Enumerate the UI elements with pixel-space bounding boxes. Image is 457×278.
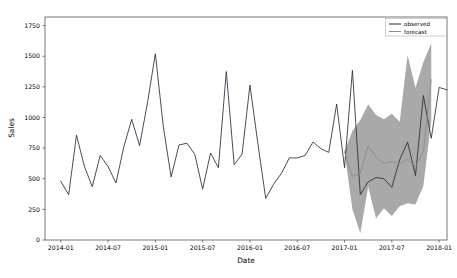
x-tick-label: 2018-01 <box>426 244 452 251</box>
x-tick-label: 2014-07 <box>95 244 121 251</box>
sales-forecast-chart: 02505007501000125015001750 2014-012014-0… <box>0 0 457 278</box>
x-tick-label: 2017-01 <box>332 244 358 251</box>
legend-label-forecast: forecast <box>404 29 427 35</box>
y-tick-label: 1000 <box>24 114 40 121</box>
x-tick-label: 2017-07 <box>379 244 405 251</box>
x-tick-label: 2015-07 <box>190 244 216 251</box>
x-tick-label: 2014-01 <box>48 244 74 251</box>
legend-label-observed: observed <box>404 21 430 27</box>
chart-figure: 02505007501000125015001750 2014-012014-0… <box>0 0 457 278</box>
chart-legend: observed forecast <box>386 19 447 37</box>
x-axis-title: Date <box>237 256 255 265</box>
y-tick-label: 0 <box>36 236 40 243</box>
y-tick-label: 1500 <box>24 52 40 59</box>
y-tick-label: 1250 <box>24 83 40 90</box>
y-tick-label: 500 <box>28 175 40 182</box>
y-tick-label: 250 <box>28 206 40 213</box>
x-axis-ticks: 2014-012014-072015-012015-072016-012016-… <box>48 240 452 251</box>
y-axis-title: Sales <box>7 118 16 138</box>
x-tick-label: 2015-01 <box>142 244 168 251</box>
y-tick-label: 750 <box>28 144 40 151</box>
y-axis-ticks: 02505007501000125015001750 <box>24 22 45 243</box>
x-tick-label: 2016-07 <box>284 244 310 251</box>
x-tick-label: 2016-01 <box>237 244 263 251</box>
y-tick-label: 1750 <box>24 22 40 29</box>
